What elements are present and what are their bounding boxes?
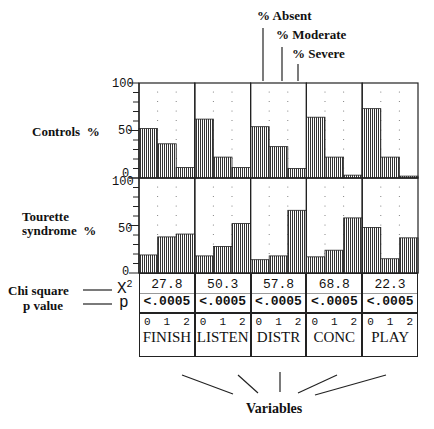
variables-label: Variables [246, 401, 302, 417]
variable-name: FINISH [140, 329, 194, 346]
bar-tourette-syndrome-distr-2 [288, 210, 307, 273]
bar-tourette-syndrome-distr-1 [269, 256, 288, 273]
p-value: <.0005 [252, 293, 306, 309]
p-value: <.0005 [307, 293, 361, 309]
level-label: 1 [331, 316, 338, 328]
level-label: 0 [311, 316, 318, 328]
level-label: 1 [164, 316, 171, 328]
bar-tourette-syndrome-play-0 [362, 227, 381, 273]
stats-cell-finish: 27.8<.0005 [139, 273, 195, 313]
bar-tourette-syndrome-listen-0 [195, 256, 214, 273]
level-label: 2 [295, 316, 302, 328]
bar-controls-conc-1 [325, 157, 344, 178]
bar-controls-distr-1 [269, 147, 288, 178]
bar-tourette-syndrome-listen-2 [232, 224, 251, 273]
chi-square-value: 50.3 [196, 277, 250, 292]
bar-controls-listen-2 [232, 168, 251, 178]
bar-tourette-syndrome-conc-2 [344, 218, 363, 273]
level-label: 0 [367, 316, 374, 328]
p-value: <.0005 [196, 293, 250, 309]
bar-controls-listen-0 [195, 119, 214, 178]
bar-controls-listen-1 [213, 157, 232, 178]
bar-tourette-syndrome-listen-1 [213, 246, 232, 273]
bar-chart [0, 0, 434, 429]
level-label: 0 [256, 316, 263, 328]
variable-cell-distr: 012DISTR [251, 313, 307, 357]
level-label: 1 [219, 316, 226, 328]
p-value: <.0005 [140, 293, 194, 309]
bar-tourette-syndrome-finish-1 [158, 237, 177, 273]
level-label: 1 [387, 316, 394, 328]
bar-tourette-syndrome-finish-2 [176, 234, 195, 273]
chi-square-value: 57.8 [252, 277, 306, 292]
stats-cell-distr: 57.8<.0005 [251, 273, 307, 313]
variable-name: DISTR [252, 329, 306, 346]
bar-controls-distr-0 [251, 127, 270, 178]
variable-cell-play: 012PLAY [362, 313, 418, 357]
bar-tourette-syndrome-finish-0 [139, 255, 158, 273]
level-label: 0 [200, 316, 207, 328]
level-label: 2 [239, 316, 246, 328]
stats-cell-conc: 68.8<.0005 [306, 273, 362, 313]
stats-cell-play: 22.3<.0005 [362, 273, 418, 313]
chi-square-value: 27.8 [140, 277, 194, 292]
bar-controls-finish-0 [139, 129, 158, 178]
chi-square-value: 68.8 [307, 277, 361, 292]
level-label: 0 [144, 316, 151, 328]
level-label: 1 [275, 316, 282, 328]
variable-name: PLAY [363, 329, 417, 346]
level-label: 2 [351, 316, 358, 328]
bar-controls-play-1 [381, 157, 400, 178]
level-label: 2 [406, 316, 413, 328]
bar-controls-play-0 [362, 109, 381, 178]
variable-cell-finish: 012FINISH [139, 313, 195, 357]
bar-controls-finish-2 [176, 168, 195, 178]
bar-tourette-syndrome-play-2 [399, 238, 418, 273]
bar-controls-finish-1 [158, 144, 177, 178]
bar-tourette-syndrome-distr-0 [251, 260, 270, 273]
variable-name: LISTEN [196, 329, 250, 346]
stats-cell-listen: 50.3<.0005 [195, 273, 251, 313]
p-value: <.0005 [363, 293, 417, 309]
chi-square-value: 22.3 [363, 277, 417, 292]
bar-tourette-syndrome-conc-0 [306, 257, 325, 273]
bar-controls-distr-2 [288, 169, 307, 179]
bar-tourette-syndrome-conc-1 [325, 250, 344, 273]
variable-cell-listen: 012LISTEN [195, 313, 251, 357]
bar-tourette-syndrome-play-1 [381, 259, 400, 273]
variable-name: CONC [307, 329, 361, 346]
level-label: 2 [183, 316, 190, 328]
variable-cell-conc: 012CONC [306, 313, 362, 357]
bar-controls-conc-0 [306, 117, 325, 178]
